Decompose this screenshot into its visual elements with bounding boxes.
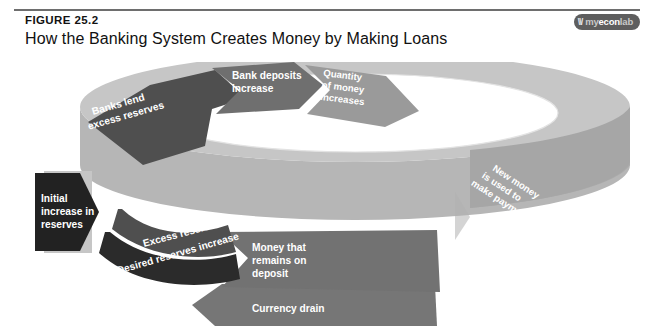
myeconlab-mark-icon: \\/: [578, 18, 583, 27]
label-currency-drain: Currency drain: [252, 303, 324, 314]
label-bank-deposits-line1: Bank deposits: [232, 70, 302, 81]
node-initial-increase-in-reserves[interactable]: Initial increase in reserves: [35, 171, 99, 253]
figure-number: FIGURE 25.2: [25, 14, 98, 26]
figure-header: FIGURE 25.2 How the Banking System Creat…: [0, 0, 651, 62]
label-money-remains-line3: deposit: [252, 268, 289, 279]
logo-word-lab: lab: [620, 16, 633, 27]
logo-word-econ: econ: [598, 16, 619, 27]
label-initial-increase-line2: increase in: [41, 206, 94, 217]
label-initial-increase-line3: reserves: [41, 219, 83, 230]
node-money-remains-on-deposit[interactable]: Money that remains on deposit: [220, 230, 440, 292]
header-divider: [14, 9, 640, 11]
logo-word-my: my: [585, 16, 598, 27]
label-money-remains-line2: remains on: [252, 255, 306, 266]
myeconlab-logo[interactable]: \\/ myeconlab: [574, 14, 640, 30]
label-bank-deposits-line2: increase: [232, 83, 274, 94]
label-money-remains-line1: Money that: [252, 242, 306, 253]
figure-title: How the Banking System Creates Money by …: [25, 30, 447, 48]
label-initial-increase-line1: Initial: [41, 193, 68, 204]
figure-root: FIGURE 25.2 How the Banking System Creat…: [0, 0, 651, 326]
myeconlab-wordmark: myeconlab: [585, 17, 633, 27]
money-creation-flow-diagram: Banks lend excess reserves Bank deposits…: [0, 62, 651, 326]
